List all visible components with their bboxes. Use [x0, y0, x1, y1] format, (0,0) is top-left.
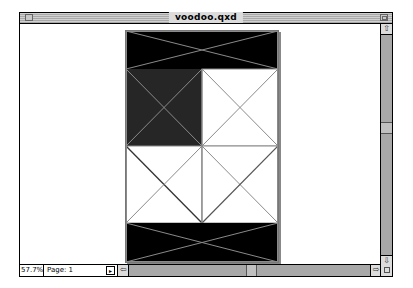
document-page[interactable] — [125, 30, 279, 263]
page-indicator: Page: 1 — [44, 265, 108, 276]
page-menu-icon[interactable]: ▸ — [106, 266, 115, 275]
close-box-icon[interactable] — [25, 14, 33, 21]
document-window: voodoo.qxd — [19, 12, 393, 277]
up-arrow-icon[interactable]: ⇧ — [381, 24, 392, 35]
horizontal-scrollbar[interactable]: ⇦ ⇨ — [117, 265, 381, 276]
document-canvas[interactable] — [20, 24, 381, 266]
status-bar: 57.7% Page: 1 ▸ ⇦ ⇨ — [20, 264, 392, 276]
title-bar[interactable]: voodoo.qxd — [20, 13, 392, 24]
vertical-scroll-thumb[interactable] — [381, 122, 392, 134]
horizontal-scroll-thumb[interactable] — [246, 265, 257, 276]
zoom-box-icon[interactable] — [380, 14, 388, 21]
window-title: voodoo.qxd — [169, 12, 243, 23]
vertical-scrollbar[interactable]: ⇧ ⇩ — [380, 24, 392, 266]
page-layout — [126, 31, 278, 262]
left-arrow-icon[interactable]: ⇦ — [118, 265, 129, 276]
grow-box-icon[interactable] — [380, 264, 392, 276]
zoom-percent-field[interactable]: 57.7% — [20, 265, 44, 276]
